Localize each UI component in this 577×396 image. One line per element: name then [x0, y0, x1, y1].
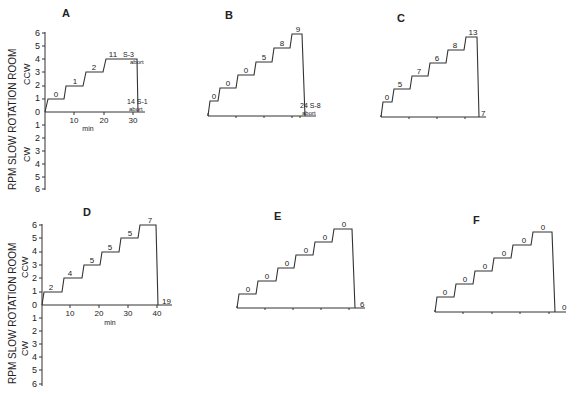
step-label: 0 — [212, 92, 217, 101]
panel-e-title: E — [274, 210, 281, 222]
rpm-profile-line — [435, 232, 555, 312]
annotation: 14 S-1 — [127, 98, 148, 105]
annotation: 7 — [481, 109, 486, 118]
y-tick: 6 — [32, 379, 37, 389]
step-label: 0 — [463, 275, 468, 284]
y-tick: 4 — [35, 54, 40, 64]
x-axis-label: min — [104, 319, 115, 326]
y-tick: 3 — [32, 260, 37, 270]
step-label: 4 — [68, 269, 73, 278]
annotation: abort — [129, 106, 143, 112]
step-label: 7 — [148, 216, 153, 225]
panel-f: F 0 0 0 0 0 0 0 — [435, 214, 567, 314]
y-tick: 5 — [32, 365, 37, 375]
y-tick: 1 — [32, 313, 37, 323]
cw-label: CW — [20, 341, 30, 356]
y-axis-label-bottom: RPM SLOW ROTATION ROOM CCW CW — [7, 243, 30, 384]
panel-d-title: D — [83, 206, 91, 218]
step-label: 0 — [502, 249, 507, 258]
y-tick: 0 — [32, 300, 37, 310]
step-label: 5 — [90, 256, 95, 265]
annotation: 6 — [360, 300, 365, 309]
panel-b: B 0 0 0 5 8 9 24 S-8 abort — [208, 9, 321, 118]
y-tick: 0 — [35, 107, 40, 117]
annotation: 24 S-8 — [300, 102, 321, 109]
rpm-profile-line — [42, 225, 158, 305]
y-tick: 6 — [35, 28, 40, 38]
y-tick: 2 — [35, 133, 40, 143]
x-tick: 10 — [66, 309, 75, 318]
annotation: S-3 — [123, 51, 134, 58]
step-label: 0 — [285, 259, 290, 268]
step-label: 0 — [304, 246, 309, 255]
rpm-profile-line — [381, 37, 479, 117]
step-label: 0 — [54, 90, 59, 99]
annotation: abort — [302, 110, 316, 116]
x-axis-label: min — [82, 125, 93, 132]
panel-c: C 0 5 7 6 8 13 7 — [381, 12, 486, 119]
ccw-label: CCW — [22, 63, 32, 85]
step-label: 5 — [398, 80, 403, 89]
step-label: 9 — [296, 25, 301, 34]
y-tick: 6 — [35, 184, 40, 194]
step-label: 0 — [323, 233, 328, 242]
panel-b-title: B — [225, 9, 233, 21]
y-tick: 2 — [32, 273, 37, 283]
step-label: 0 — [541, 223, 546, 232]
step-label: 0 — [342, 220, 347, 229]
y-tick: 1 — [32, 286, 37, 296]
step-label: 7 — [417, 67, 422, 76]
y-axis-label: RPM SLOW ROTATION ROOM — [7, 49, 18, 190]
step-label: 8 — [453, 41, 458, 50]
step-label: 5 — [128, 229, 133, 238]
step-label: 13 — [469, 28, 478, 37]
annotation: 0 — [562, 303, 567, 312]
step-label: 0 — [244, 66, 249, 75]
y-tick: 3 — [32, 339, 37, 349]
x-tick: 30 — [129, 116, 138, 125]
y-tick: 6 — [32, 220, 37, 230]
panel-a-title: A — [62, 7, 70, 19]
y-axis-label-top: RPM SLOW ROTATION ROOM CCW CW — [7, 49, 32, 190]
y-axis-label: RPM SLOW ROTATION ROOM — [7, 243, 18, 384]
step-label: 0 — [443, 288, 448, 297]
y-tick: 1 — [35, 120, 40, 130]
y-tick: 4 — [32, 246, 37, 256]
step-label: 0 — [522, 236, 527, 245]
step-label: 0 — [226, 79, 231, 88]
step-label: 0 — [246, 285, 251, 294]
step-label: 0 — [385, 93, 390, 102]
step-label: 2 — [92, 63, 97, 72]
y-tick: 2 — [32, 326, 37, 336]
step-label: 0 — [483, 262, 488, 271]
y-tick: 5 — [35, 172, 40, 182]
annotation: 19 — [162, 297, 171, 306]
panel-d: D 6 5 4 3 2 1 0 1 2 3 4 5 6 10 20 30 — [32, 206, 172, 389]
y-tick: 5 — [35, 41, 40, 51]
panel-f-title: F — [473, 214, 480, 226]
y-tick: 3 — [35, 67, 40, 77]
step-label: 8 — [280, 39, 285, 48]
figure-canvas: A 6 5 4 3 2 1 0 1 2 3 4 5 6 10 2 — [0, 0, 577, 396]
y-tick: 3 — [35, 146, 40, 156]
y-tick: 4 — [32, 352, 37, 362]
panel-a: A 6 5 4 3 2 1 0 1 2 3 4 5 6 10 2 — [35, 7, 148, 194]
y-tick: 5 — [32, 233, 37, 243]
rpm-profile-line — [208, 34, 305, 116]
x-tick: 40 — [153, 309, 162, 318]
step-label: 5 — [262, 53, 267, 62]
y-tick: 1 — [35, 93, 40, 103]
step-label: 6 — [435, 54, 440, 63]
step-label: 11 — [109, 50, 118, 59]
step-label: 1 — [73, 77, 78, 86]
step-label: 5 — [108, 243, 113, 252]
y-tick: 4 — [35, 159, 40, 169]
step-label: 0 — [265, 272, 270, 281]
ccw-label: CCW — [20, 256, 30, 278]
rpm-profile-line — [237, 229, 355, 308]
cw-label: CW — [22, 147, 32, 162]
y-tick: 2 — [35, 80, 40, 90]
step-label: 2 — [49, 283, 54, 292]
x-tick: 20 — [100, 116, 109, 125]
x-tick: 30 — [124, 309, 133, 318]
